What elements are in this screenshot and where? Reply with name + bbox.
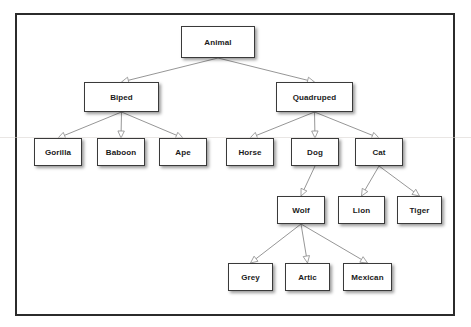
node-label: Lion [353, 206, 370, 215]
node-gorilla[interactable]: Gorilla [34, 138, 82, 166]
node-label: Gorilla [45, 148, 71, 157]
node-label: Mexican [351, 273, 383, 282]
node-biped[interactable]: Biped [84, 82, 159, 112]
node-wolf[interactable]: Wolf [277, 196, 325, 224]
node-label: Horse [238, 148, 261, 157]
node-label: Wolf [292, 206, 310, 215]
node-label: Grey [241, 273, 260, 282]
node-label: Animal [204, 38, 231, 47]
node-lion[interactable]: Lion [338, 196, 385, 224]
node-baboon[interactable]: Baboon [97, 138, 145, 166]
node-mexican[interactable]: Mexican [343, 263, 392, 291]
node-animal[interactable]: Animal [181, 26, 255, 58]
node-label: Dog [307, 148, 323, 157]
node-artic[interactable]: Artic [285, 263, 330, 291]
node-label: Ape [175, 148, 190, 157]
node-quadruped[interactable]: Quadruped [276, 82, 353, 112]
node-label: Tiger [410, 206, 430, 215]
node-label: Quadruped [293, 93, 337, 102]
node-label: Cat [372, 148, 385, 157]
node-dog[interactable]: Dog [291, 138, 339, 166]
node-tiger[interactable]: Tiger [397, 196, 442, 224]
node-cat[interactable]: Cat [355, 138, 403, 166]
node-label: Biped [110, 93, 133, 102]
node-label: Artic [298, 273, 317, 282]
node-grey[interactable]: Grey [228, 263, 273, 291]
diagram-canvas: AnimalBipedQuadrupedGorillaBaboonApeHors… [0, 0, 471, 327]
node-horse[interactable]: Horse [226, 138, 274, 166]
node-label: Baboon [106, 148, 136, 157]
node-ape[interactable]: Ape [159, 138, 207, 166]
